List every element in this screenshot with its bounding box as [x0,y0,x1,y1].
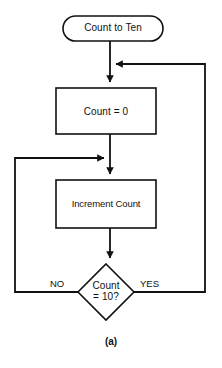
process-init-label: Count = 0 [56,106,156,117]
decision-label-line-2: = 10? [93,291,119,302]
figure-caption: (a) [0,336,222,347]
branch-no-label: NO [50,278,64,289]
flowchart-figure: Count to Ten Count = 0 Increment Count C… [0,0,222,368]
process-increment-label: Increment Count [54,198,158,209]
decision-check-label: Count= 10? [81,281,131,302]
decision-label-line-1: Count [92,280,119,291]
flowchart-canvas [0,0,222,368]
terminal-start-label: Count to Ten [63,22,163,33]
branch-yes-label: YES [140,278,159,289]
